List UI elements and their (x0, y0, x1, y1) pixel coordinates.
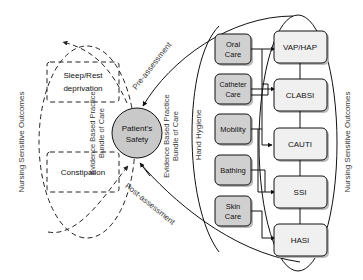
node-ssi[interactable]: SSI (274, 176, 329, 210)
node-sleep-rest-deprivation (47, 62, 119, 102)
connector-skin-care-to-hasi (251, 211, 275, 238)
center-patient-safety-node[interactable]: Patient's Safety (112, 108, 162, 158)
node-constipation-label: Constipation (61, 168, 105, 177)
node-sleep-rest-deprivation-label-line2: deprivation (63, 84, 102, 93)
node-catheter-care-label-line2: Care (225, 91, 240, 98)
node-skin-care-label-line2: Care (225, 212, 241, 221)
right-bundle-label-line1: Evidence Based Practice (162, 94, 171, 177)
left-nursing-sensitive-outcomes-label: Nursing Sensitive Outcomes (17, 92, 26, 193)
node-vap-hap-label: VAP/HAP (283, 43, 317, 52)
intervention-nodes: Oral Care Catheter Care Mobility Bathing (215, 34, 253, 228)
node-mobility-label: Mobility (220, 125, 246, 134)
node-mobility[interactable]: Mobility (215, 114, 253, 146)
node-catheter-care[interactable]: Catheter Care (215, 74, 253, 106)
node-oral-care[interactable]: Oral Care (215, 34, 253, 66)
node-hasi[interactable]: HASI (274, 224, 329, 258)
patient-safety-label-line2: Safety (126, 135, 149, 144)
left-bundle-label-line2: Bundle of Care (97, 108, 106, 158)
node-catheter-care-label-line1: Catheter (220, 81, 248, 88)
post-assessment-label: Post-assessment (123, 181, 177, 227)
node-catheter-care-box[interactable] (215, 74, 251, 104)
post-assessment-center-arrowhead (140, 163, 150, 176)
node-oral-care-label-line2: Care (225, 50, 241, 59)
node-oral-care-label-line1: Oral (226, 40, 241, 49)
node-cauti-label: CAUTI (288, 140, 312, 149)
intervention-outcome-connectors (251, 49, 275, 238)
node-clabsi-label: CLABSI (286, 91, 314, 100)
node-cauti[interactable]: CAUTI (274, 128, 329, 162)
patient-safety-circle[interactable] (112, 108, 162, 158)
hand-hygiene-label: Hand Hygiene (194, 109, 203, 160)
node-skin-care-label-line1: Skin (226, 202, 241, 211)
node-hasi-label: HASI (291, 236, 310, 245)
node-bathing-label: Bathing (220, 166, 245, 175)
patient-safety-diagram: Sleep/Rest deprivation Constipation Nurs… (0, 0, 363, 280)
patient-safety-label-line1: Patient's (122, 124, 152, 133)
node-clabsi[interactable]: CLABSI (274, 79, 329, 113)
outcome-nodes: VAP/HAP CLABSI CAUTI SSI (274, 31, 329, 258)
right-bundle-labels: Evidence Based Practice Bundle of Care (162, 94, 180, 177)
node-ssi-label: SSI (294, 188, 307, 197)
node-bathing[interactable]: Bathing (215, 155, 253, 187)
node-skin-care[interactable]: Skin Care (215, 196, 253, 228)
right-bundle-label-line2: Bundle of Care (171, 111, 180, 161)
right-nursing-sensitive-outcomes-label: Nursing Sensitive Outcomes (343, 92, 352, 193)
node-vap-hap[interactable]: VAP/HAP (274, 31, 329, 65)
left-bundle-label-line1: Evidence Based Practice (88, 91, 97, 174)
pre-assessment-label: Pre-assessment (131, 40, 174, 92)
diagram-canvas: Sleep/Rest deprivation Constipation Nurs… (0, 0, 363, 280)
node-sleep-rest-deprivation-label-line1: Sleep/Rest (63, 71, 103, 80)
